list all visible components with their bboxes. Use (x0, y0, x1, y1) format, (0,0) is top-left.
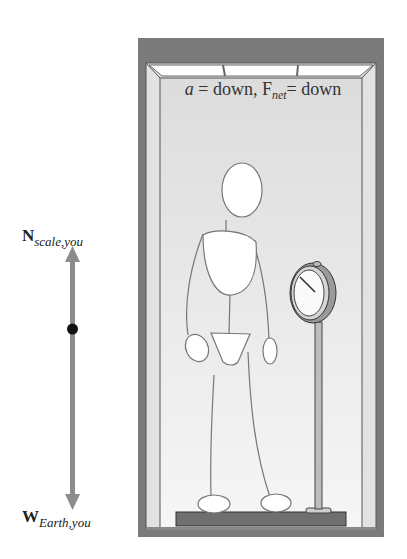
weight-label: WEarth,you (22, 507, 91, 531)
normal-force-symbol: N (22, 226, 34, 245)
point-mass-dot (67, 324, 78, 335)
scale-platform (176, 512, 346, 526)
weight-symbol: W (22, 507, 39, 526)
weight-subscript: Earth,you (39, 515, 91, 530)
force-vector-arrows (65, 246, 80, 510)
force-text: = down (287, 79, 342, 99)
normal-force-subscript: scale,you (34, 234, 83, 249)
accel-text: = down, (194, 79, 262, 99)
force-symbol: F (262, 79, 272, 99)
normal-force-label: Nscale,you (22, 226, 83, 250)
motion-caption: a = down, Fnet= down (164, 79, 362, 103)
accel-symbol: a (185, 79, 194, 99)
scale-pole (315, 322, 322, 509)
force-subscript: net (272, 88, 287, 102)
ceiling-light (149, 65, 373, 76)
